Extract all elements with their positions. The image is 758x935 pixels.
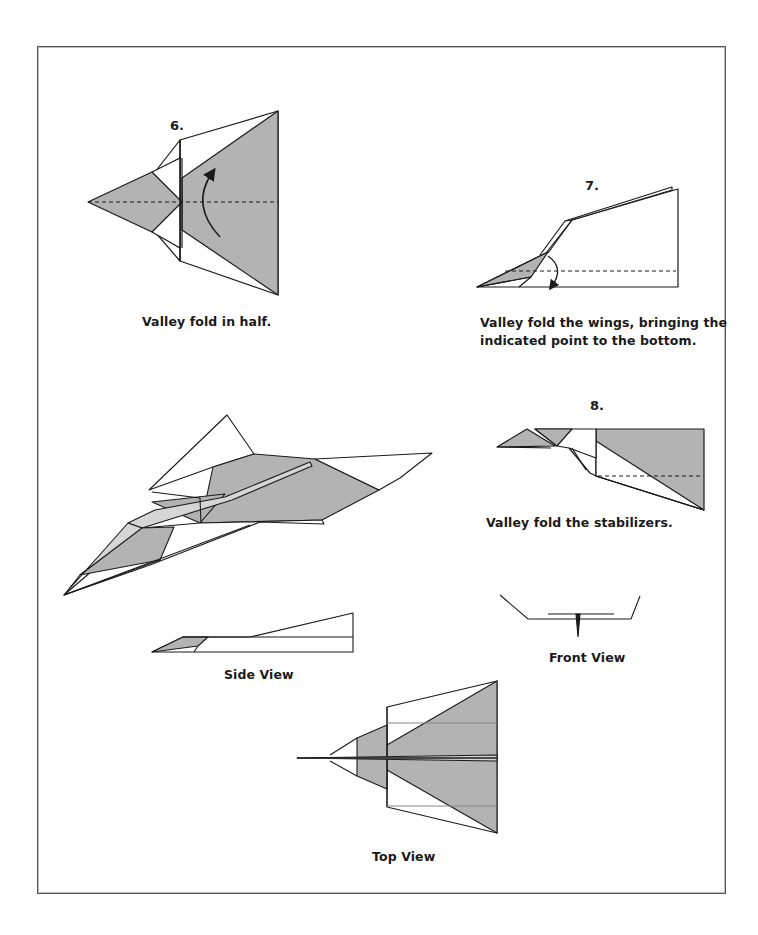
step7-diagram xyxy=(477,187,678,287)
front-view-diagram xyxy=(500,595,640,637)
front-view-label: Front View xyxy=(549,648,625,667)
step6-diagram xyxy=(88,111,278,295)
side-view-label: Side View xyxy=(224,665,294,684)
step7-caption-line1: Valley fold the wings, bringing the xyxy=(480,313,727,332)
diagram-canvas xyxy=(0,0,758,935)
step7-caption-line2: indicated point to the bottom. xyxy=(480,331,697,350)
top-view-diagram xyxy=(297,681,497,833)
step8-number: 8. xyxy=(590,398,604,413)
airplane-3d-diagram xyxy=(64,415,432,595)
side-view-diagram xyxy=(152,613,353,652)
step7-number: 7. xyxy=(585,178,599,193)
step8-caption: Valley fold the stabilizers. xyxy=(486,513,673,532)
step6-number: 6. xyxy=(170,118,184,133)
step8-diagram xyxy=(497,429,704,510)
top-view-label: Top View xyxy=(372,847,435,866)
step6-caption: Valley fold in half. xyxy=(142,312,271,331)
